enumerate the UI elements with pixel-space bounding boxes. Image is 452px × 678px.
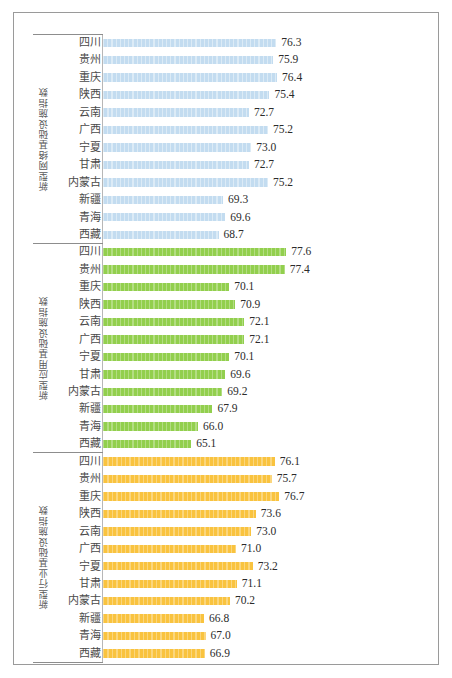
bar-row: 新疆66.8 bbox=[33, 610, 447, 627]
bar-row: 贵州77.4 bbox=[33, 261, 447, 278]
bar-value-label: 68.7 bbox=[224, 226, 244, 243]
bar-value-label: 75.9 bbox=[278, 51, 298, 68]
bar-track: 69.6 bbox=[103, 209, 447, 226]
bar-track: 69.2 bbox=[103, 383, 447, 400]
bar-row: 贵州75.9 bbox=[33, 51, 447, 68]
bar-track: 65.1 bbox=[103, 435, 447, 452]
category-label: 重庆 bbox=[55, 69, 101, 86]
bar-track: 75.4 bbox=[103, 86, 447, 103]
bar bbox=[103, 457, 275, 465]
bar bbox=[103, 248, 286, 256]
bar-track: 70.1 bbox=[103, 278, 447, 295]
bar-value-label: 69.6 bbox=[230, 366, 250, 383]
category-label: 青海 bbox=[55, 209, 101, 226]
bar-value-label: 69.6 bbox=[230, 209, 250, 226]
bar-value-label: 73.6 bbox=[261, 505, 281, 522]
bar-value-label: 76.4 bbox=[282, 69, 302, 86]
bar bbox=[103, 649, 205, 657]
category-label: 内蒙古 bbox=[55, 383, 101, 400]
bar-value-label: 72.7 bbox=[254, 104, 274, 121]
bar-row: 青海69.6 bbox=[33, 209, 447, 226]
bar bbox=[103, 126, 268, 134]
bar-row: 内蒙古70.2 bbox=[33, 592, 447, 609]
category-label: 新疆 bbox=[55, 610, 101, 627]
bar-value-label: 71.0 bbox=[241, 540, 261, 557]
bar-track: 66.9 bbox=[103, 645, 447, 662]
bar-track: 67.9 bbox=[103, 400, 447, 417]
bar bbox=[103, 231, 219, 239]
bar-row: 云南73.0 bbox=[33, 523, 447, 540]
bar bbox=[103, 370, 225, 378]
category-label: 贵州 bbox=[55, 51, 101, 68]
bar-row: 宁夏70.1 bbox=[33, 348, 447, 365]
bar bbox=[103, 265, 285, 273]
category-label: 重庆 bbox=[55, 278, 101, 295]
bar-value-label: 69.2 bbox=[227, 383, 247, 400]
bar-row: 甘肃69.6 bbox=[33, 366, 447, 383]
bar-track: 69.6 bbox=[103, 366, 447, 383]
bar bbox=[103, 632, 206, 640]
bar bbox=[103, 597, 230, 605]
bar-track: 70.9 bbox=[103, 296, 447, 313]
bar-row: 陕西73.6 bbox=[33, 505, 447, 522]
bar-value-label: 73.0 bbox=[256, 139, 276, 156]
category-label: 内蒙古 bbox=[55, 174, 101, 191]
bar-value-label: 67.0 bbox=[211, 627, 231, 644]
bar-row: 四川77.6 bbox=[33, 243, 447, 260]
bar-track: 75.9 bbox=[103, 51, 447, 68]
bar bbox=[103, 353, 229, 361]
bar-value-label: 76.1 bbox=[280, 453, 300, 470]
category-label: 陕西 bbox=[55, 296, 101, 313]
figure-frame: 新型网络基础设施指数四川76.3贵州75.9重庆76.4陕西75.4云南72.7… bbox=[13, 12, 439, 665]
bar bbox=[103, 388, 222, 396]
bar-row: 西藏66.9 bbox=[33, 645, 447, 662]
category-label: 云南 bbox=[55, 523, 101, 540]
bar bbox=[103, 527, 251, 535]
bar-row: 广西72.1 bbox=[33, 331, 447, 348]
bar-track: 72.7 bbox=[103, 104, 447, 121]
bar-value-label: 65.1 bbox=[196, 435, 216, 452]
category-label: 广西 bbox=[55, 331, 101, 348]
category-label: 青海 bbox=[55, 418, 101, 435]
bar bbox=[103, 492, 279, 500]
category-label: 新疆 bbox=[55, 400, 101, 417]
bar-row: 青海66.0 bbox=[33, 418, 447, 435]
category-label: 内蒙古 bbox=[55, 592, 101, 609]
category-label: 新疆 bbox=[55, 191, 101, 208]
bar-row: 重庆76.7 bbox=[33, 488, 447, 505]
category-label: 四川 bbox=[55, 34, 101, 51]
bar-track: 71.0 bbox=[103, 540, 447, 557]
bar bbox=[103, 213, 225, 221]
category-label: 宁夏 bbox=[55, 348, 101, 365]
bar-track: 72.1 bbox=[103, 331, 447, 348]
bar-row: 内蒙古69.2 bbox=[33, 383, 447, 400]
bar-row: 西藏68.7 bbox=[33, 226, 447, 243]
bar bbox=[103, 91, 269, 99]
bar-track: 75.2 bbox=[103, 121, 447, 138]
category-label: 广西 bbox=[55, 540, 101, 557]
bar bbox=[103, 562, 253, 570]
bar bbox=[103, 178, 268, 186]
category-label: 宁夏 bbox=[55, 558, 101, 575]
bar-row: 广西71.0 bbox=[33, 540, 447, 557]
bar bbox=[103, 283, 229, 291]
bar-track: 76.3 bbox=[103, 34, 447, 51]
bar-row: 云南72.1 bbox=[33, 313, 447, 330]
bar-value-label: 70.9 bbox=[240, 296, 260, 313]
category-label: 甘肃 bbox=[55, 366, 101, 383]
bar-value-label: 72.1 bbox=[249, 331, 269, 348]
bar-value-label: 77.4 bbox=[290, 261, 310, 278]
bar bbox=[103, 405, 212, 413]
bar bbox=[103, 143, 251, 151]
bar-track: 72.1 bbox=[103, 313, 447, 330]
bar-track: 70.2 bbox=[103, 592, 447, 609]
category-label: 贵州 bbox=[55, 470, 101, 487]
bar-track: 66.0 bbox=[103, 418, 447, 435]
bar-row: 西藏65.1 bbox=[33, 435, 447, 452]
bar bbox=[103, 73, 277, 81]
bar-track: 75.2 bbox=[103, 174, 447, 191]
bar-track: 73.6 bbox=[103, 505, 447, 522]
bar-value-label: 73.2 bbox=[258, 558, 278, 575]
bar bbox=[103, 335, 244, 343]
bar-track: 77.4 bbox=[103, 261, 447, 278]
